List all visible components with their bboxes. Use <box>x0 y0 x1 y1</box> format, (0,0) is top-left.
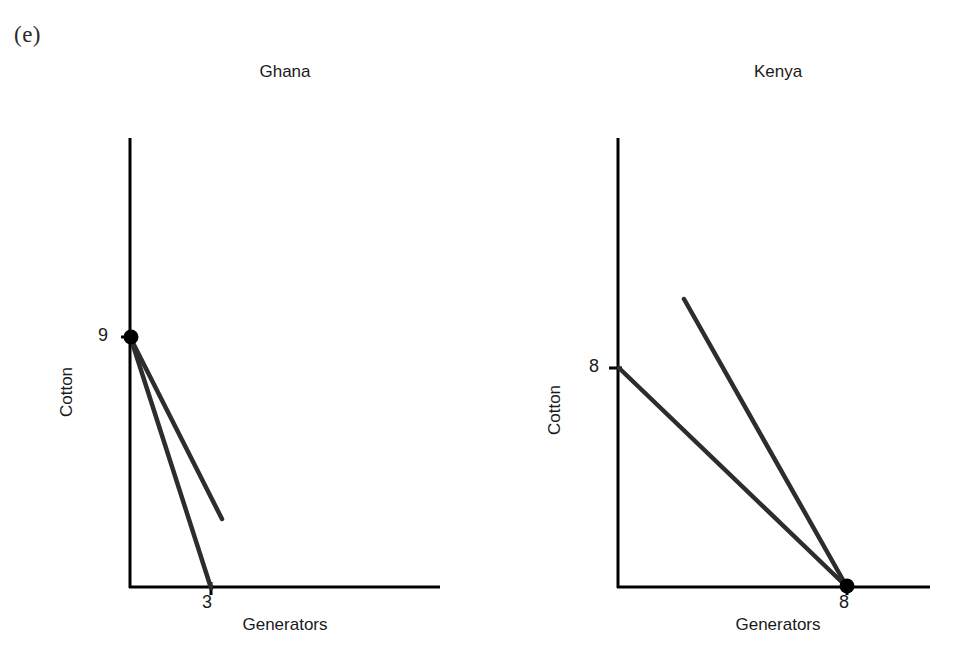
panel-label: (e) <box>14 22 41 48</box>
plot-vector-layer <box>0 0 965 649</box>
ghana-series <box>124 330 223 589</box>
ghana-ppf-line <box>131 339 211 588</box>
ghana-y-tick-label: 9 <box>98 325 108 346</box>
kenya-y-tick-label: 8 <box>589 356 599 377</box>
ghana-endowment-marker <box>124 330 139 345</box>
kenya-x-tick-label: 8 <box>839 592 849 613</box>
ghana-x-axis-label: Generators <box>135 615 435 635</box>
kenya-ppf-line <box>619 368 847 587</box>
kenya-series <box>619 299 855 594</box>
kenya-x-axis-label: Generators <box>628 615 928 635</box>
chart-title-ghana: Ghana <box>155 62 415 82</box>
kenya-axes <box>609 138 930 595</box>
ghana-y-axis-label: Cotton <box>57 367 77 417</box>
chart-title-kenya: Kenya <box>648 62 908 82</box>
kenya-trade-line <box>684 299 847 587</box>
ghana-axes <box>121 138 440 595</box>
kenya-y-axis-label: Cotton <box>545 385 565 435</box>
ghana-x-tick-label: 3 <box>202 592 212 613</box>
figure-canvas: (e) Ghana Kenya <box>0 0 965 649</box>
ghana-trade-line <box>131 339 222 519</box>
